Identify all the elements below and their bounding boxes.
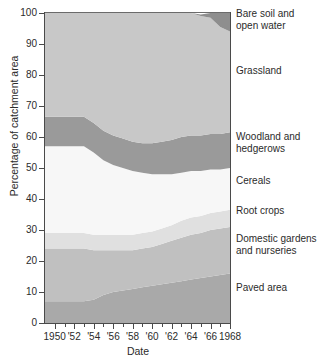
y-tick-80 [39,75,44,76]
x-tick-1963 [181,324,182,327]
plot-area [45,13,230,323]
x-tick-1967 [220,324,221,327]
plot-right-border [230,12,231,324]
legend-label-line1: Paved area [236,282,333,294]
y-tick-20 [39,261,44,262]
x-tick-1950 [55,324,56,329]
legend-label-line1: Bare soil and [236,8,333,20]
legend-label-bare-soil-and: Bare soil andopen water [236,8,333,31]
legend-label-cereals: Cereals [236,175,333,187]
legend-label-domestic-gardens: Domestic gardensand nurseries [236,233,333,256]
legend-label-line1: Cereals [236,175,333,187]
legend-label-line2: hedgerows [236,143,333,155]
legend-label-root-crops: Root crops [236,205,333,217]
x-tick-1964 [191,324,192,329]
x-tick-1954 [94,324,95,329]
x-tick-1955 [103,324,104,327]
x-tick-1960 [152,324,153,329]
y-tick-40 [39,199,44,200]
chart-figure: 0102030405060708090100 Percentage of cat… [0,0,333,361]
x-tick-1958 [133,324,134,329]
x-tick-1965 [201,324,202,327]
y-tick-60 [39,137,44,138]
plot-top-border [45,12,231,13]
legend-label-line1: Root crops [236,205,333,217]
y-tick-100 [39,13,44,14]
legend-label-grassland: Grassland [236,65,333,77]
legend-label-line1: Domestic gardens [236,233,333,245]
y-tick-label-30: 30 [11,225,37,235]
legend-label-woodland-and: Woodland andhedgerows [236,131,333,154]
x-tick-1957 [123,324,124,327]
legend-label-line1: Grassland [236,65,333,77]
y-tick-30 [39,230,44,231]
y-tick-70 [39,106,44,107]
stacked-area-svg [45,13,230,323]
x-tick-1962 [172,324,173,329]
x-tick-1968 [230,324,231,329]
y-axis-line [44,12,45,324]
y-axis-title: Percentage of catchment area [8,26,20,226]
y-tick-50 [39,168,44,169]
x-tick-1952 [74,324,75,329]
x-tick-1953 [84,324,85,327]
x-tick-1959 [142,324,143,327]
y-tick-label-0: 0 [11,318,37,328]
y-tick-label-10: 10 [11,287,37,297]
x-axis-line [44,323,231,324]
y-tick-10 [39,292,44,293]
x-tick-1951 [65,324,66,327]
legend-label-line2: and nurseries [236,245,333,257]
y-tick-label-20: 20 [11,256,37,266]
legend: Bare soil andopen waterGrasslandWoodland… [236,0,333,361]
x-tick-1966 [211,324,212,329]
y-tick-90 [39,44,44,45]
x-tick-1961 [162,324,163,327]
x-tick-1956 [113,324,114,329]
y-tick-0 [39,323,44,324]
y-tick-label-100: 100 [11,8,37,18]
legend-label-line1: Woodland and [236,131,333,143]
x-axis-title: Date [45,345,231,357]
legend-label-line2: open water [236,20,333,32]
legend-label-paved-area: Paved area [236,282,333,294]
